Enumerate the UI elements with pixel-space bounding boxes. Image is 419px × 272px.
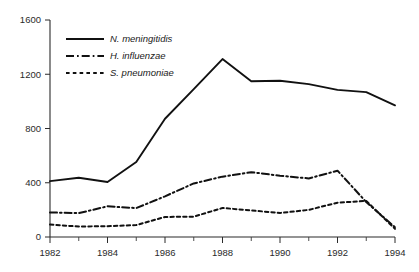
y-tick-label: 800 — [25, 123, 41, 134]
y-tick-labels: 040080012001600 — [20, 14, 41, 242]
legend-label-1: N. meningitidis — [110, 33, 173, 44]
x-tick-label: 1992 — [327, 247, 348, 258]
x-tick-label: 1988 — [212, 247, 233, 258]
x-tick-label: 1994 — [384, 247, 405, 258]
series-line-h-influenzae — [50, 171, 395, 228]
chart-canvas: 040080012001600 198219841986198819901992… — [0, 0, 419, 272]
x-tick-label: 1986 — [154, 247, 175, 258]
legend-label-3: S. pneumoniae — [110, 67, 174, 78]
y-tick-label: 1600 — [20, 14, 41, 25]
y-tick-label: 0 — [36, 231, 41, 242]
chart-legend: N. meningitidisH. influenzaeS. pneumonia… — [66, 33, 174, 78]
x-tick-label: 1984 — [97, 247, 118, 258]
x-tick-label: 1982 — [39, 247, 60, 258]
data-series-group — [50, 59, 395, 229]
legend-label-2: H. influenzae — [110, 50, 165, 61]
x-tick-marks — [50, 237, 395, 243]
x-tick-label: 1990 — [269, 247, 290, 258]
x-tick-labels: 1982198419861988199019921994 — [39, 247, 405, 258]
series-line-n-meningitidis — [50, 59, 395, 182]
y-tick-label: 400 — [25, 177, 41, 188]
y-axis-group: 040080012001600 — [20, 14, 50, 242]
series-line-s-pneumoniae — [50, 201, 395, 229]
y-tick-marks — [45, 20, 50, 237]
y-tick-label: 1200 — [20, 69, 41, 80]
x-axis-group: 1982198419861988199019921994 — [39, 237, 405, 258]
line-chart: 040080012001600 198219841986198819901992… — [0, 0, 419, 272]
